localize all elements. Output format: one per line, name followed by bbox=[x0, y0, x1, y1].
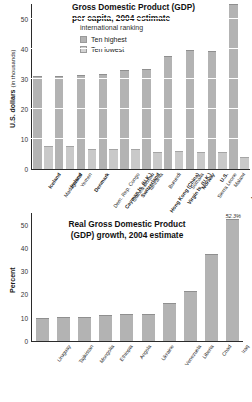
bar bbox=[153, 152, 162, 169]
x-category-label: Liberia bbox=[202, 344, 216, 360]
y-tick-label: 10 bbox=[21, 314, 28, 321]
bar bbox=[142, 69, 151, 169]
x-category-label: Ukraine bbox=[161, 344, 176, 362]
x-category-label: Angola bbox=[139, 344, 153, 360]
bar bbox=[36, 318, 49, 341]
gdp-per-capita-plot-area: 01020304050 bbox=[31, 4, 250, 170]
y-tick-label: 30 bbox=[21, 76, 28, 83]
y-tick-label: 50 bbox=[21, 16, 28, 23]
bar bbox=[99, 315, 112, 341]
bar bbox=[57, 317, 70, 341]
bar bbox=[229, 4, 238, 169]
bar bbox=[186, 50, 195, 169]
y-tick-label: 40 bbox=[21, 46, 28, 53]
gdp-growth-plot-area: 52.3% 01020304050 bbox=[31, 213, 243, 342]
x-category-label: Burundi bbox=[168, 172, 183, 190]
y-tick-label: 20 bbox=[21, 291, 28, 298]
gdp-per-capita-y-axis-label: U.S. dollars (in thousands) bbox=[9, 50, 17, 129]
bar-value-label: 52.3% bbox=[225, 213, 241, 219]
x-category-label: Chad bbox=[222, 344, 234, 357]
bar bbox=[120, 70, 129, 169]
y-tick-label: 10 bbox=[21, 136, 28, 143]
bar bbox=[175, 151, 184, 169]
y-tick-label: 50 bbox=[21, 221, 28, 228]
bar bbox=[99, 74, 108, 169]
x-axis-line bbox=[31, 341, 243, 342]
gdp-growth-category-labels: UruguayTajikistanMongoliaEthiopiaAngolaU… bbox=[31, 344, 243, 394]
bar bbox=[205, 254, 218, 341]
x-axis-line bbox=[31, 169, 250, 170]
bar bbox=[197, 152, 206, 169]
gdp-per-capita-category-labels: IcelandMadagascarIrelandYemenDenmarkDem.… bbox=[31, 172, 250, 205]
bar bbox=[33, 76, 42, 169]
gdp-per-capita-bars bbox=[32, 4, 250, 169]
bar bbox=[184, 291, 197, 341]
bar bbox=[109, 149, 118, 169]
bar bbox=[88, 149, 97, 169]
y-tick-label: 20 bbox=[21, 106, 28, 113]
gdp-growth-bars: 52.3% bbox=[32, 213, 243, 341]
x-category-label: Denmark bbox=[94, 172, 111, 193]
bar bbox=[142, 314, 155, 341]
x-category-label: Iceland bbox=[48, 172, 63, 190]
bar bbox=[78, 317, 91, 341]
x-category-label: Uruguay bbox=[56, 344, 72, 363]
bar bbox=[44, 146, 53, 169]
bar bbox=[218, 152, 227, 169]
x-category-label: Mongolia bbox=[99, 344, 116, 364]
y-tick-label: 0 bbox=[24, 338, 28, 345]
gdp-growth-chart: Real Gross Domestic Product (GDP) growth… bbox=[0, 205, 252, 402]
y-tick-label: 40 bbox=[21, 244, 28, 251]
x-category-label: Tajikistan bbox=[78, 344, 95, 365]
bar bbox=[120, 314, 133, 341]
y-tick-label: 0 bbox=[24, 166, 28, 173]
y-tick-label: 30 bbox=[21, 268, 28, 275]
bar bbox=[164, 56, 173, 169]
bar bbox=[55, 76, 64, 169]
bar bbox=[131, 149, 140, 169]
x-category-label: Iraq bbox=[241, 344, 251, 355]
x-category-label: Luxembourg bbox=[250, 172, 252, 201]
bar bbox=[163, 303, 176, 341]
bar: 52.3% bbox=[226, 219, 239, 341]
bar bbox=[77, 75, 86, 169]
gdp-per-capita-chart: Gross Domestic Product (GDP) per capita,… bbox=[0, 0, 252, 205]
x-category-label: Ethiopia bbox=[119, 344, 134, 363]
bar bbox=[240, 157, 249, 169]
bar bbox=[66, 146, 75, 169]
bar bbox=[208, 51, 217, 170]
gdp-growth-y-axis-label: Percent bbox=[9, 267, 17, 293]
